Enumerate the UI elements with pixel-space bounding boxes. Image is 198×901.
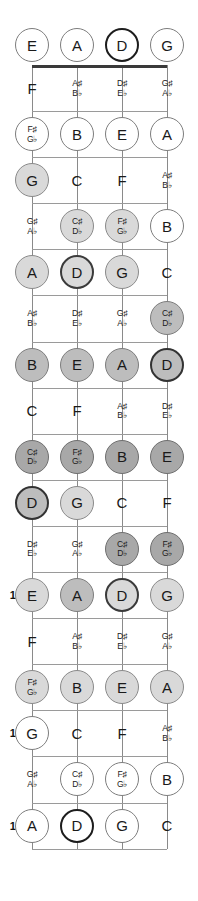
note-Estring-fret16[interactable]: G♯A♭ — [15, 762, 49, 796]
note-Estring-fret8[interactable]: C — [15, 394, 49, 428]
note-Estring-fret0[interactable]: E — [15, 28, 49, 62]
note-label: G — [161, 588, 173, 603]
note-Astring-fret14[interactable]: B — [60, 670, 94, 704]
note-Astring-fret6[interactable]: D♯E♭ — [60, 301, 94, 335]
note-label: A♯B♭ — [27, 309, 37, 327]
note-label: G♯A♭ — [117, 309, 127, 327]
note-Estring-fret2[interactable]: F♯G♭ — [15, 117, 49, 151]
note-Estring-fret7[interactable]: B — [15, 348, 49, 382]
note-Gstring-fret16[interactable]: B — [150, 762, 184, 796]
note-Estring-fret17[interactable]: A — [15, 809, 49, 843]
note-Astring-fret15[interactable]: C — [60, 716, 94, 750]
note-Estring-fret9[interactable]: C♯D♭ — [15, 440, 49, 474]
note-Astring-fret0[interactable]: A — [60, 28, 94, 62]
note-label: F♯G♭ — [27, 678, 37, 696]
fret-wire-6 — [32, 342, 167, 343]
note-Gstring-fret9[interactable]: E — [150, 440, 184, 474]
note-Gstring-fret3[interactable]: A♯B♭ — [150, 163, 184, 197]
note-label: G — [116, 818, 128, 833]
note-label: C — [162, 818, 173, 833]
note-Astring-fret12[interactable]: A — [60, 578, 94, 612]
note-Astring-fret7[interactable]: E — [60, 348, 94, 382]
note-label: A♯B♭ — [162, 724, 172, 742]
fret-wire-16 — [32, 803, 167, 804]
note-Estring-fret6[interactable]: A♯B♭ — [15, 301, 49, 335]
note-label: A — [27, 818, 37, 833]
note-Dstring-fret14[interactable]: E — [105, 670, 139, 704]
note-Astring-fret2[interactable]: B — [60, 117, 94, 151]
note-label: E — [117, 127, 127, 142]
note-label: A — [162, 127, 172, 142]
note-Dstring-fret11[interactable]: C♯D♭ — [105, 532, 139, 566]
note-label: B — [162, 219, 172, 234]
note-Astring-fret11[interactable]: G♯A♭ — [60, 532, 94, 566]
note-Astring-fret8[interactable]: F — [60, 394, 94, 428]
note-Dstring-fret4[interactable]: F♯G♭ — [105, 209, 139, 243]
fret-wire-11 — [32, 572, 167, 573]
note-Dstring-fret1[interactable]: D♯E♭ — [105, 71, 139, 105]
note-Astring-fret9[interactable]: F♯G♭ — [60, 440, 94, 474]
note-Dstring-fret13[interactable]: D♯E♭ — [105, 624, 139, 658]
fret-wire-7 — [32, 388, 167, 389]
note-label: A — [117, 357, 127, 372]
note-Gstring-fret13[interactable]: G♯A♭ — [150, 624, 184, 658]
note-label: F♯G♭ — [162, 540, 172, 558]
fret-wire-12 — [32, 618, 167, 619]
note-Estring-fret10[interactable]: D — [15, 486, 49, 520]
note-Estring-fret15[interactable]: G — [15, 716, 49, 750]
note-Astring-fret10[interactable]: G — [60, 486, 94, 520]
note-label: G — [161, 38, 173, 53]
note-Gstring-fret11[interactable]: F♯G♭ — [150, 532, 184, 566]
note-Dstring-fret8[interactable]: A♯B♭ — [105, 394, 139, 428]
note-Gstring-fret5[interactable]: C — [150, 255, 184, 289]
note-label: C♯D♭ — [117, 540, 127, 558]
note-Dstring-fret2[interactable]: E — [105, 117, 139, 151]
note-label: E — [117, 680, 127, 695]
note-Gstring-fret12[interactable]: G — [150, 578, 184, 612]
note-Astring-fret3[interactable]: C — [60, 163, 94, 197]
note-Dstring-fret9[interactable]: B — [105, 440, 139, 474]
note-Astring-fret16[interactable]: C♯D♭ — [60, 762, 94, 796]
note-Astring-fret17[interactable]: D — [60, 809, 94, 843]
note-Estring-fret5[interactable]: A — [15, 255, 49, 289]
note-Gstring-fret8[interactable]: D♯E♭ — [150, 394, 184, 428]
note-Dstring-fret0[interactable]: D — [105, 28, 139, 62]
note-Dstring-fret15[interactable]: F — [105, 716, 139, 750]
note-Dstring-fret7[interactable]: A — [105, 348, 139, 382]
note-Estring-fret3[interactable]: G — [15, 163, 49, 197]
note-Dstring-fret5[interactable]: G — [105, 255, 139, 289]
note-Gstring-fret2[interactable]: A — [150, 117, 184, 151]
note-Gstring-fret7[interactable]: D — [150, 348, 184, 382]
note-Gstring-fret15[interactable]: A♯B♭ — [150, 716, 184, 750]
note-Dstring-fret16[interactable]: F♯G♭ — [105, 762, 139, 796]
note-Estring-fret11[interactable]: D♯E♭ — [15, 532, 49, 566]
note-Dstring-fret12[interactable]: D — [105, 578, 139, 612]
note-label: G — [71, 495, 83, 510]
note-Estring-fret12[interactable]: E — [15, 578, 49, 612]
note-label: F — [27, 81, 36, 96]
note-Gstring-fret17[interactable]: C — [150, 809, 184, 843]
note-Estring-fret13[interactable]: F — [15, 624, 49, 658]
note-Gstring-fret1[interactable]: G♯A♭ — [150, 71, 184, 105]
fret-wire-3 — [32, 203, 167, 204]
note-Astring-fret13[interactable]: A♯B♭ — [60, 624, 94, 658]
note-Estring-fret14[interactable]: F♯G♭ — [15, 670, 49, 704]
note-Dstring-fret17[interactable]: G — [105, 809, 139, 843]
note-Gstring-fret10[interactable]: F — [150, 486, 184, 520]
note-Estring-fret1[interactable]: F — [15, 71, 49, 105]
note-Gstring-fret14[interactable]: A — [150, 670, 184, 704]
note-Estring-fret4[interactable]: G♯A♭ — [15, 209, 49, 243]
note-Astring-fret4[interactable]: C♯D♭ — [60, 209, 94, 243]
note-label: F♯G♭ — [117, 217, 127, 235]
note-Astring-fret5[interactable]: D — [60, 255, 94, 289]
note-Dstring-fret6[interactable]: G♯A♭ — [105, 301, 139, 335]
note-Gstring-fret0[interactable]: G — [150, 28, 184, 62]
note-Dstring-fret3[interactable]: F — [105, 163, 139, 197]
note-Dstring-fret10[interactable]: C — [105, 486, 139, 520]
note-Astring-fret1[interactable]: A♯B♭ — [60, 71, 94, 105]
note-Gstring-fret4[interactable]: B — [150, 209, 184, 243]
note-Gstring-fret6[interactable]: C♯D♭ — [150, 301, 184, 335]
note-label: F — [72, 403, 81, 418]
note-label: D — [117, 588, 128, 603]
note-label: A♯B♭ — [117, 402, 127, 420]
